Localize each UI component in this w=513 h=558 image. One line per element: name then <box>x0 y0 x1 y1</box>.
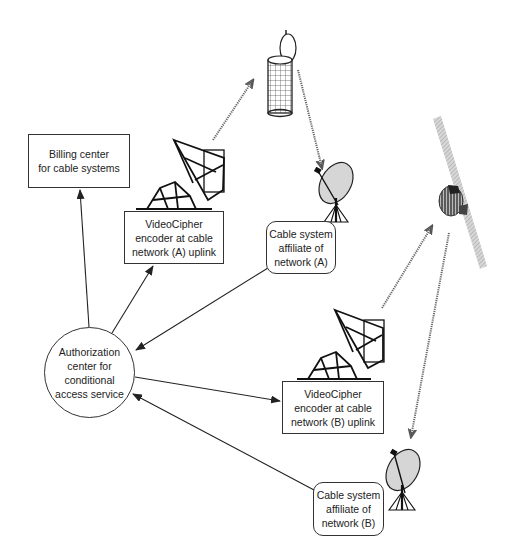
affiliate-a-line-1: Cable system <box>269 227 333 241</box>
authorization-line-1: Authorization <box>55 345 124 359</box>
downlink-a-signal <box>298 70 322 168</box>
affiliate-b-line-1: Cable system <box>317 488 381 502</box>
solar-panel-satellite-icon <box>433 116 487 269</box>
encoder-b-line-2: encoder at cable <box>291 401 375 415</box>
authorization-line-4: access service <box>55 387 124 401</box>
billing-center-node: Billing center for cable systems <box>28 134 130 188</box>
affiliate-b-line-3: network (B) <box>317 516 381 530</box>
encoder-b-line-3: network (B) uplink <box>291 415 375 429</box>
edge-auth-to-encoder-a <box>112 266 153 333</box>
uplink-a-signal <box>213 80 253 140</box>
encoder-a-line-3: network (A) uplink <box>132 245 216 259</box>
authorization-line-3: conditional <box>55 373 124 387</box>
cylindrical-satellite-icon <box>268 30 296 117</box>
encoder-a-node: VideoCipher encoder at cable network (A)… <box>124 211 224 264</box>
authorization-center-node: Authorization center for conditional acc… <box>44 327 135 418</box>
diagram-canvas <box>0 0 513 558</box>
billing-line-1: Billing center <box>38 147 120 161</box>
edge-affiliate-a-to-auth <box>136 268 268 350</box>
edge-auth-to-billing <box>80 190 89 327</box>
uplink-dish-icon-a <box>136 140 224 209</box>
affiliate-b-line-2: affiliate of <box>317 502 381 516</box>
billing-line-2: for cable systems <box>38 161 120 175</box>
encoder-a-line-1: VideoCipher <box>132 217 216 231</box>
affiliate-a-line-2: affiliate of <box>269 241 333 255</box>
affiliate-b-node: Cable system affiliate of network (B) <box>313 482 384 536</box>
edge-auth-to-encoder-b <box>135 377 280 401</box>
receive-dish-icon-b <box>379 443 427 510</box>
downlink-b-signal <box>411 233 449 437</box>
encoder-b-line-1: VideoCipher <box>291 387 375 401</box>
receive-dish-icon-a <box>312 156 360 222</box>
encoder-b-node: VideoCipher encoder at cable network (B)… <box>282 381 384 434</box>
uplink-dish-icon-b <box>297 310 384 379</box>
encoder-a-line-2: encoder at cable <box>132 231 216 245</box>
uplink-b-signal <box>382 226 432 308</box>
affiliate-a-line-3: network (A) <box>269 255 333 269</box>
authorization-line-2: center for <box>55 359 124 373</box>
affiliate-a-node: Cable system affiliate of network (A) <box>266 221 336 274</box>
